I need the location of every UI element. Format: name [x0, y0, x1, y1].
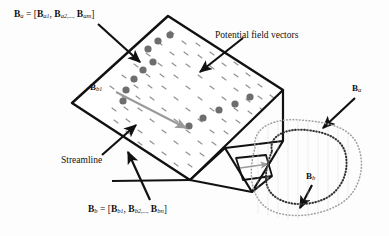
label-bb-formula: Bb = [Bb1, Bb2,..., Bbn] [88, 205, 167, 215]
label-streamline: Streamline [61, 156, 102, 166]
diagram-svg [0, 0, 389, 236]
label-ba-formula: Ba = [Ba1, Ba2,..., Bam] [14, 10, 94, 20]
figure-canvas: Ba = [Ba1, Ba2,..., Bam] Bb = [Bb1, Bb2,… [0, 0, 389, 236]
label-bb-right: Bb [306, 172, 315, 182]
detail-inner-arrow [240, 164, 268, 168]
arrow-bb-formula [128, 152, 150, 200]
label-potential-field-vectors: Potential field vectors [215, 31, 298, 41]
label-bb1: Bb1 [90, 83, 102, 93]
arrow-ba-formula [98, 24, 140, 62]
label-ba-right: Ba [352, 84, 361, 94]
